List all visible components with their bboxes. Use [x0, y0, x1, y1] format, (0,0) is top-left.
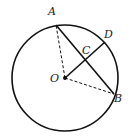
- label-b: B: [113, 92, 122, 105]
- circle-diagram: A D C O B: [0, 0, 132, 140]
- diagram-canvas: A D C O B: [0, 0, 132, 140]
- label-d: D: [103, 28, 113, 41]
- center-point-o: [63, 76, 67, 80]
- label-c: C: [82, 44, 91, 57]
- label-o: O: [50, 72, 59, 85]
- label-a: A: [47, 5, 56, 18]
